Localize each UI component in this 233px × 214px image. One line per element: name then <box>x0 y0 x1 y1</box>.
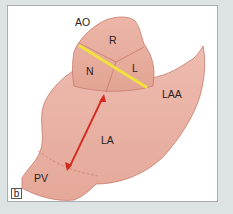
heart-diagram: AO R N L LAA LA PV <box>0 0 233 214</box>
label-left-atrial-appendage: LAA <box>162 88 182 100</box>
panel-label: b <box>11 188 22 199</box>
label-left-atrium: LA <box>101 134 114 146</box>
label-pulmonary-veins: PV <box>34 172 48 184</box>
aortic-root-shape <box>73 17 155 91</box>
label-left-cusp: L <box>132 62 138 74</box>
label-right-cusp: R <box>109 34 117 46</box>
label-noncoronary-cusp: N <box>86 65 94 77</box>
label-aorta: AO <box>75 16 90 28</box>
